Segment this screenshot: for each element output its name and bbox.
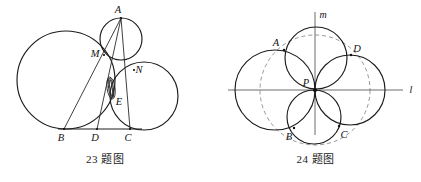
figure-23-drawing: A M N E B D C [0, 0, 210, 150]
point-label-e: E [115, 96, 123, 107]
point-label-p: P [302, 77, 310, 88]
point-label-a: A [272, 37, 280, 48]
point-marker-c [338, 125, 340, 127]
small-top-circle [100, 18, 142, 60]
point-marker-m [103, 54, 105, 56]
figure-page: A M N E B D C 23 题图 [0, 0, 421, 182]
point-label-a: A [114, 4, 122, 15]
point-label-m: M [90, 48, 101, 59]
point-marker-d [96, 128, 98, 130]
point-marker-c [129, 128, 131, 130]
point-label-b: B [58, 132, 65, 143]
axis-label-l: l [410, 84, 413, 95]
figure-24-container: P A D B C l m 24 题图 [210, 0, 421, 182]
point-marker-a [120, 17, 122, 19]
figure-24-drawing: P A D B C l m [210, 0, 421, 150]
point-marker-b [63, 128, 65, 130]
point-marker-p [313, 88, 317, 92]
axis-label-m: m [319, 9, 326, 20]
point-label-b: B [286, 131, 293, 142]
point-label-d: D [90, 132, 99, 143]
point-label-n: N [134, 64, 143, 75]
figure-24-caption: 24 题图 [210, 150, 421, 166]
segment-a-b [64, 18, 121, 129]
point-marker-a [283, 49, 285, 51]
point-label-c: C [340, 129, 348, 140]
figure-23-caption: 23 题图 [0, 150, 210, 166]
figure-23-container: A M N E B D C 23 题图 [0, 0, 210, 182]
point-label-c: C [124, 132, 132, 143]
point-marker-b [293, 127, 295, 129]
point-label-d: D [352, 43, 361, 54]
point-marker-d [350, 54, 352, 56]
segment-a-c [121, 18, 130, 129]
